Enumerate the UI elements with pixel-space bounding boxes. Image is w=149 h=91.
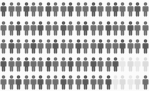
pictogram-cell bbox=[22, 19, 29, 37]
pictogram-cell bbox=[15, 55, 22, 73]
person-icon bbox=[112, 21, 119, 36]
person-icon bbox=[75, 2, 82, 17]
person-icon bbox=[75, 57, 82, 72]
pictogram-cell bbox=[60, 55, 67, 73]
person-icon bbox=[67, 75, 74, 90]
person-icon bbox=[45, 39, 52, 54]
pictogram-cell bbox=[30, 73, 37, 91]
person-icon bbox=[105, 75, 112, 90]
pictogram-cell bbox=[142, 19, 149, 37]
person-icon bbox=[8, 21, 15, 36]
pictogram-cell bbox=[0, 55, 7, 73]
pictogram-cell bbox=[89, 37, 96, 55]
pictogram-cell bbox=[97, 37, 104, 55]
pictogram-cell bbox=[127, 37, 134, 55]
pictogram-cell bbox=[22, 55, 29, 73]
person-icon bbox=[142, 39, 149, 54]
person-icon bbox=[52, 75, 59, 90]
pictogram-cell bbox=[89, 1, 96, 19]
person-icon bbox=[37, 39, 44, 54]
person-icon bbox=[23, 75, 30, 90]
person-icon bbox=[0, 39, 7, 54]
pictogram-cell bbox=[97, 55, 104, 73]
pictogram-cell bbox=[74, 37, 81, 55]
person-icon bbox=[60, 21, 67, 36]
pictogram-cell bbox=[67, 37, 74, 55]
person-icon bbox=[97, 57, 104, 72]
person-icon bbox=[142, 75, 149, 90]
pictogram-cell bbox=[60, 19, 67, 37]
pictogram-cell bbox=[74, 19, 81, 37]
person-icon bbox=[0, 21, 7, 36]
person-icon bbox=[23, 2, 30, 17]
person-icon bbox=[105, 21, 112, 36]
pictogram-cell bbox=[45, 37, 52, 55]
pictogram-cell bbox=[112, 55, 119, 73]
pictogram-cell bbox=[37, 19, 44, 37]
person-icon bbox=[23, 57, 30, 72]
person-icon bbox=[52, 39, 59, 54]
person-icon bbox=[52, 57, 59, 72]
person-icon bbox=[119, 57, 126, 72]
pictogram-cell bbox=[37, 1, 44, 19]
pictogram-cell bbox=[142, 37, 149, 55]
pictogram-cell bbox=[82, 73, 89, 91]
pictogram-cell bbox=[112, 1, 119, 19]
pictogram-cell bbox=[134, 55, 141, 73]
person-icon bbox=[15, 75, 22, 90]
person-icon bbox=[90, 21, 97, 36]
person-icon bbox=[134, 21, 141, 36]
pictogram-cell bbox=[82, 37, 89, 55]
person-icon bbox=[52, 21, 59, 36]
person-icon bbox=[90, 75, 97, 90]
person-icon bbox=[30, 21, 37, 36]
pictogram-cell bbox=[89, 19, 96, 37]
pictogram-cell bbox=[30, 19, 37, 37]
pictogram-cell bbox=[37, 55, 44, 73]
pictogram-cell bbox=[0, 19, 7, 37]
pictogram-chart bbox=[0, 0, 149, 91]
person-icon bbox=[67, 21, 74, 36]
person-icon bbox=[105, 57, 112, 72]
person-icon bbox=[75, 39, 82, 54]
person-icon bbox=[112, 39, 119, 54]
person-icon bbox=[60, 57, 67, 72]
person-icon bbox=[67, 2, 74, 17]
pictogram-cell bbox=[97, 19, 104, 37]
pictogram-cell bbox=[119, 1, 126, 19]
person-icon bbox=[97, 21, 104, 36]
person-icon bbox=[142, 57, 149, 72]
pictogram-cell bbox=[127, 55, 134, 73]
person-icon bbox=[112, 57, 119, 72]
pictogram-cell bbox=[119, 19, 126, 37]
pictogram-cell bbox=[142, 55, 149, 73]
person-icon bbox=[30, 57, 37, 72]
person-icon bbox=[105, 2, 112, 17]
person-icon bbox=[97, 2, 104, 17]
person-icon bbox=[82, 2, 89, 17]
pictogram-cell bbox=[0, 1, 7, 19]
person-icon bbox=[15, 39, 22, 54]
pictogram-cell bbox=[22, 1, 29, 19]
pictogram-cell bbox=[52, 55, 59, 73]
person-icon bbox=[0, 2, 7, 17]
pictogram-cell bbox=[119, 37, 126, 55]
person-icon bbox=[127, 21, 134, 36]
pictogram-cell bbox=[45, 73, 52, 91]
person-icon bbox=[134, 57, 141, 72]
person-icon bbox=[142, 21, 149, 36]
pictogram-cell bbox=[60, 1, 67, 19]
pictogram-cell bbox=[0, 37, 7, 55]
pictogram-cell bbox=[134, 37, 141, 55]
person-icon bbox=[127, 75, 134, 90]
pictogram-cell bbox=[30, 37, 37, 55]
pictogram-cell bbox=[104, 55, 111, 73]
person-icon bbox=[142, 2, 149, 17]
pictogram-cell bbox=[82, 55, 89, 73]
pictogram-cell bbox=[112, 37, 119, 55]
pictogram-cell bbox=[52, 1, 59, 19]
person-icon bbox=[30, 39, 37, 54]
person-icon bbox=[8, 57, 15, 72]
person-icon bbox=[60, 39, 67, 54]
person-icon bbox=[37, 21, 44, 36]
